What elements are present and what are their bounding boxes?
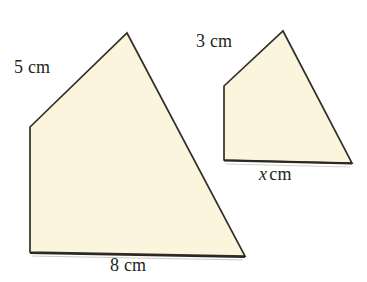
label-small-left-side: 3 cm xyxy=(196,32,232,50)
shapes-canvas xyxy=(0,0,367,282)
label-large-bottom-side: 8 cm xyxy=(110,256,146,274)
unit-cm: cm xyxy=(269,164,291,184)
label-small-bottom-side: xcm xyxy=(259,165,292,183)
label-large-left-side: 5 cm xyxy=(14,58,50,76)
unknown-variable-x: x xyxy=(259,164,267,184)
geometry-figure: 5 cm 3 cm 8 cm xcm xyxy=(0,0,367,282)
